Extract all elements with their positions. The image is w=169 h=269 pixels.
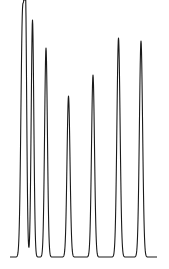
chromatogram-trace <box>10 0 157 257</box>
chromatogram-chart <box>0 0 169 269</box>
